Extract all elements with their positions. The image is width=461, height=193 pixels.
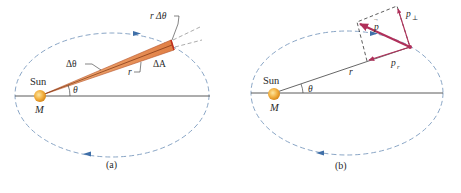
delta-area-label: ΔA bbox=[153, 59, 166, 69]
sun-label-a: Sun bbox=[30, 76, 47, 87]
p-vector bbox=[360, 24, 410, 47]
r-label-a: r bbox=[128, 67, 132, 77]
p-perp-label-text: p bbox=[405, 9, 411, 19]
theta-arc-a bbox=[68, 85, 70, 96]
delta-theta-label: Δθ bbox=[66, 59, 77, 69]
orbit-arrow-bottom-b-icon bbox=[316, 151, 324, 156]
theta-label-a: θ bbox=[73, 85, 78, 95]
sun-b bbox=[268, 88, 280, 100]
mass-label-a: M bbox=[34, 104, 45, 115]
sun-label-b: Sun bbox=[263, 75, 280, 86]
wedge-extension-upper bbox=[173, 27, 200, 40]
wedge-radius-line bbox=[42, 45, 172, 95]
p-label-text: p bbox=[373, 22, 379, 32]
p-radial-label-sub: r bbox=[397, 63, 400, 70]
mass-label-b: M bbox=[269, 102, 280, 113]
theta-arc-b bbox=[301, 84, 303, 93]
r-label-b: r bbox=[349, 67, 353, 77]
planet-b bbox=[408, 45, 412, 49]
theta-label-b: θ bbox=[308, 84, 313, 94]
caption-a: (a) bbox=[106, 159, 117, 171]
p-radial-label: p r bbox=[390, 58, 400, 70]
panel-a: Sun M θ Δθ r Δθ r ΔA (a) bbox=[15, 11, 210, 171]
r-delta-theta-label: r Δθ bbox=[150, 11, 167, 21]
panel-b: Sun M θ r p → p r p ⊥ (b) bbox=[251, 6, 443, 172]
orbit-arrow-bottom-a-icon bbox=[83, 152, 91, 157]
caption-b: (b) bbox=[335, 160, 347, 172]
p-radial-label-text: p bbox=[390, 58, 396, 68]
component-dashed-box bbox=[357, 6, 410, 61]
sun-a bbox=[34, 90, 46, 102]
p-perp-label: p ⊥ bbox=[405, 9, 418, 21]
wedge-extension-lower bbox=[175, 40, 202, 47]
delta-theta-leader bbox=[85, 64, 101, 70]
p-label: p → bbox=[373, 16, 379, 32]
p-radial-vector bbox=[369, 47, 410, 60]
r-delta-theta-leader bbox=[172, 16, 179, 40]
kepler-second-law-figure: Sun M θ Δθ r Δθ r ΔA (a) Sun M θ r bbox=[0, 0, 461, 193]
p-label-arrow: → bbox=[373, 16, 379, 22]
p-perp-label-sub: ⊥ bbox=[412, 14, 418, 21]
